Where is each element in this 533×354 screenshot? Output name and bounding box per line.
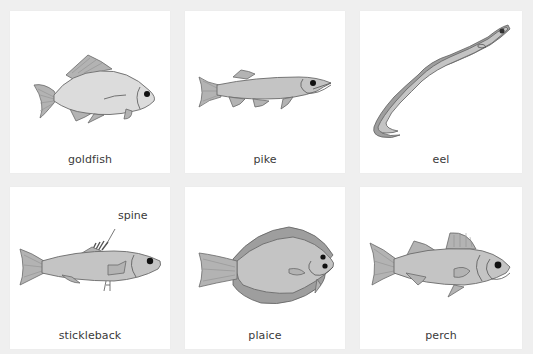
fish-grid: goldfish pike eel	[10, 11, 522, 349]
plaice-illustration	[185, 187, 345, 349]
card-stickleback: spine stickleback	[10, 187, 170, 349]
label-perch: perch	[360, 329, 522, 342]
label-stickleback: stickleback	[10, 329, 170, 342]
pike-illustration	[185, 11, 345, 173]
perch-illustration	[360, 187, 522, 349]
eel-illustration	[360, 11, 522, 173]
label-goldfish: goldfish	[10, 153, 170, 166]
card-perch: perch	[360, 187, 522, 349]
label-eel: eel	[360, 153, 522, 166]
card-eel: eel	[360, 11, 522, 173]
spine-annotation: spine	[118, 209, 148, 222]
card-plaice: plaice	[185, 187, 345, 349]
card-pike: pike	[185, 11, 345, 173]
label-plaice: plaice	[185, 329, 345, 342]
label-pike: pike	[185, 153, 345, 166]
card-goldfish: goldfish	[10, 11, 170, 173]
goldfish-illustration	[10, 11, 170, 173]
